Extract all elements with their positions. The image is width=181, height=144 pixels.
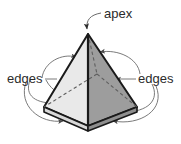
apex-label: apex: [104, 6, 133, 21]
edges-left-label: edges: [7, 71, 43, 86]
edges-right-label: edges: [138, 71, 174, 86]
apex-leader-line: [87, 13, 101, 29]
pyramid-diagram-canvas: apex edges edges: [0, 0, 181, 144]
pyramid-diagram: apex edges edges: [0, 0, 181, 144]
